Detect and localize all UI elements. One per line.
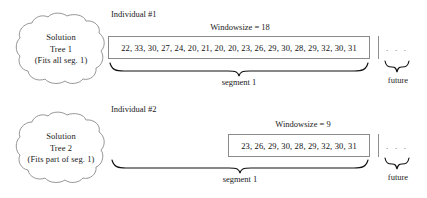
solution-tree-label-1: Solution Tree 1 (Fits all seg. 1) bbox=[12, 32, 110, 67]
individual-row-2: Solution Tree 2 (Fits part of seg. 1) In… bbox=[0, 99, 427, 198]
tree-line-1: Solution bbox=[12, 131, 110, 143]
solution-tree-label-2: Solution Tree 2 (Fits part of seg. 1) bbox=[12, 131, 110, 166]
segment-brace-1 bbox=[108, 61, 370, 77]
individual-label-2: Individual #2 bbox=[111, 104, 157, 114]
future-label-1: future bbox=[377, 75, 419, 85]
solution-tree-cloud-2: Solution Tree 2 (Fits part of seg. 1) bbox=[12, 110, 110, 186]
values-box-1: 22, 33, 30, 27, 24, 20, 21, 20, 20, 23, … bbox=[108, 36, 370, 59]
windowsize-label-1: Windowsize = 18 bbox=[180, 22, 300, 32]
tree-line-2: Tree 1 bbox=[12, 43, 110, 55]
solution-tree-cloud-1: Solution Tree 1 (Fits all seg. 1) bbox=[12, 11, 110, 87]
tree-line-2: Tree 2 bbox=[12, 142, 110, 154]
future-dots-1: . . . bbox=[386, 43, 408, 53]
future-divider-2 bbox=[378, 134, 379, 157]
tree-line-1: Solution bbox=[12, 32, 110, 44]
segment-brace-2 bbox=[110, 158, 370, 174]
individual-label-1: Individual #1 bbox=[111, 9, 157, 19]
tree-line-3: (Fits all seg. 1) bbox=[12, 55, 110, 67]
future-dots-2: . . . bbox=[386, 141, 408, 151]
segment-windowsize-diagram: Solution Tree 1 (Fits all seg. 1) Indivi… bbox=[0, 0, 427, 198]
future-label-2: future bbox=[377, 172, 419, 182]
future-brace-1 bbox=[383, 60, 412, 73]
segment-label-1: segment 1 bbox=[108, 77, 370, 87]
windowsize-label-2: Windowsize = 9 bbox=[238, 119, 368, 129]
values-box-2: 23, 26, 29, 30, 28, 29, 32, 30, 31 bbox=[228, 134, 370, 157]
future-brace-2 bbox=[383, 157, 412, 170]
segment-label-2: segment 1 bbox=[110, 174, 370, 184]
individual-row-1: Solution Tree 1 (Fits all seg. 1) Indivi… bbox=[0, 0, 427, 99]
tree-line-3: (Fits part of seg. 1) bbox=[12, 154, 110, 166]
future-divider-1 bbox=[378, 36, 379, 59]
